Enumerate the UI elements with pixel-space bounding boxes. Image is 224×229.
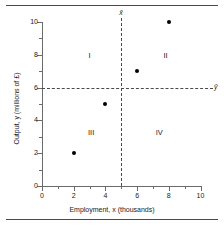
y-tick-minor: [39, 170, 42, 171]
x-tick-minor: [121, 186, 122, 189]
x-axis-title: Employment, x (thousands): [0, 205, 224, 214]
y-mean-line: [42, 88, 213, 89]
x-tick-major: [137, 186, 138, 191]
quadrant-label-ii: II: [164, 50, 168, 59]
x-tick-minor: [185, 186, 186, 189]
y-tick-label: 2: [34, 149, 38, 157]
y-axis-title: Output, y (millions of £): [12, 44, 21, 174]
figure-container: 02468100246810 x̄ȳ IIIIIIIV Employment,…: [0, 0, 224, 229]
y-tick-minor: [39, 71, 42, 72]
x-mean-label: x̄: [119, 9, 123, 17]
y-tick-label: 6: [34, 84, 38, 92]
y-tick-minor: [39, 104, 42, 105]
data-point: [103, 102, 107, 106]
x-tick-major: [201, 186, 202, 191]
x-tick-label: 4: [103, 192, 107, 200]
x-tick-label: 2: [72, 192, 76, 200]
y-axis-line: [42, 22, 43, 187]
y-tick-minor: [39, 137, 42, 138]
x-tick-minor: [58, 186, 59, 189]
x-tick-label: 6: [135, 192, 139, 200]
quadrant-label-iii: III: [88, 127, 94, 136]
y-mean-label: ȳ: [214, 83, 218, 91]
x-tick-major: [42, 186, 43, 191]
x-tick-major: [105, 186, 106, 191]
x-mean-line: [121, 18, 122, 186]
x-tick-label: 10: [197, 192, 205, 200]
x-tick-label: 0: [40, 192, 44, 200]
quadrant-label-iv: IV: [156, 127, 163, 136]
x-tick-label: 8: [167, 192, 171, 200]
data-point: [135, 69, 139, 73]
data-point: [167, 20, 171, 24]
quadrant-label-i: I: [89, 50, 91, 59]
y-tick-label: 0: [34, 182, 38, 190]
data-point: [72, 151, 76, 155]
y-tick-label: 10: [30, 18, 38, 26]
x-tick-major: [169, 186, 170, 191]
x-tick-minor: [90, 186, 91, 189]
y-tick-label: 8: [34, 51, 38, 59]
scatter-plot: 02468100246810 x̄ȳ IIIIIIIV: [0, 0, 224, 229]
x-tick-minor: [153, 186, 154, 189]
y-tick-label: 4: [34, 116, 38, 124]
y-tick-minor: [39, 38, 42, 39]
x-tick-major: [74, 186, 75, 191]
